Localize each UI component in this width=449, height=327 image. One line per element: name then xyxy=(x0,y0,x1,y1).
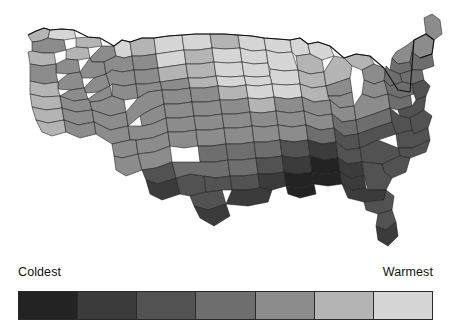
county-co-n xyxy=(190,86,220,102)
county-sd-nw xyxy=(242,62,270,77)
county-id-c2 xyxy=(106,70,136,86)
county-ar-n xyxy=(278,125,308,142)
county-tx-e xyxy=(256,156,284,174)
county-ne-e xyxy=(272,84,302,99)
county-tx-n xyxy=(224,126,254,144)
legend-label-warmest: Warmest xyxy=(383,264,433,280)
county-ks-c xyxy=(248,97,276,113)
legend-swatch-3 xyxy=(196,292,255,319)
county-nm-ne xyxy=(194,114,224,130)
legend-swatch-1 xyxy=(78,292,137,319)
county-wa-n2 xyxy=(76,37,102,48)
county-polygons xyxy=(28,14,442,246)
county-or-c xyxy=(30,64,58,84)
county-nm-n xyxy=(166,116,196,132)
county-ok-panhandle xyxy=(222,112,252,128)
county-tx-coast xyxy=(226,188,272,206)
map-area xyxy=(0,0,449,258)
legend-label-coldest: Coldest xyxy=(18,264,61,280)
county-nm-c xyxy=(168,130,198,148)
county-mt-c1 xyxy=(132,54,158,70)
county-tx-c2 xyxy=(226,142,256,160)
county-or-nw xyxy=(28,51,56,66)
county-mo-nw xyxy=(274,97,304,113)
county-la-c xyxy=(282,156,312,174)
legend-swatch-6 xyxy=(374,292,432,319)
legend-labels: Coldest Warmest xyxy=(18,264,433,284)
county-ne-c xyxy=(246,84,274,99)
county-tx-ne2 xyxy=(254,140,282,158)
county-mo-s xyxy=(276,111,306,127)
county-tx-c6 xyxy=(230,174,260,190)
county-co-e xyxy=(192,100,222,116)
us-map-svg xyxy=(0,0,449,258)
county-wy-n2 xyxy=(186,62,216,78)
county-ms-gulf xyxy=(312,172,342,186)
county-sd-e xyxy=(270,69,300,85)
county-or-n2 xyxy=(56,59,80,74)
county-co-nw xyxy=(162,88,192,104)
legend-swatch-2 xyxy=(137,292,196,319)
legend-color-bar xyxy=(18,291,433,320)
county-la-n xyxy=(280,140,310,158)
county-ca-s1 xyxy=(36,120,66,136)
county-nj-md xyxy=(412,80,430,100)
county-ks-w xyxy=(220,98,250,114)
county-mt-n1 xyxy=(182,34,212,50)
legend-swatch-4 xyxy=(256,292,315,319)
county-tx-c1 xyxy=(198,144,228,162)
county-mt-n2 xyxy=(210,34,240,49)
county-tx-nw xyxy=(196,128,226,146)
county-tx-s1 xyxy=(176,174,206,196)
county-tx-gulf xyxy=(258,172,286,190)
county-or-c2 xyxy=(58,72,84,90)
county-mt-c3 xyxy=(184,48,214,64)
county-wa-n1 xyxy=(48,29,76,40)
county-ne-w xyxy=(218,85,248,100)
legend-block: Coldest Warmest xyxy=(0,258,449,327)
county-id-n xyxy=(114,40,132,58)
legend-swatch-5 xyxy=(315,292,374,319)
county-mt-c4 xyxy=(212,48,242,63)
figure-container: Coldest Warmest xyxy=(0,0,449,327)
county-tx-c5 xyxy=(204,176,232,192)
county-co-c xyxy=(164,102,194,118)
county-wy-s1 xyxy=(188,76,218,88)
legend-swatch-0 xyxy=(19,292,78,319)
county-az-s xyxy=(114,154,142,176)
county-tx-c4 xyxy=(228,158,258,176)
county-mn-nw xyxy=(290,38,310,56)
county-wa-s2 xyxy=(66,47,90,60)
county-sd-s xyxy=(216,76,246,87)
county-tx-c3 xyxy=(172,160,230,178)
county-sd-w xyxy=(214,62,244,77)
county-tx-ne xyxy=(252,125,280,142)
county-wy-nw xyxy=(134,68,160,84)
county-ok-c xyxy=(250,111,278,127)
